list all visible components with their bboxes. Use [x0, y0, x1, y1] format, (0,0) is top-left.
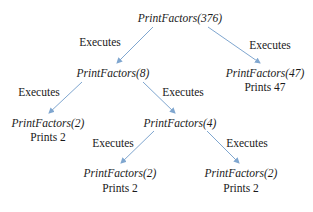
- edges-layer: [0, 0, 313, 212]
- edge-label-4-2-left: Executes: [92, 137, 134, 149]
- edge-label-4-2-right: Executes: [226, 137, 268, 149]
- arrow-376-to-8: [117, 27, 153, 63]
- node-4-call: PrintFactors(4): [144, 117, 217, 129]
- node-376-call: PrintFactors(376): [138, 12, 222, 24]
- edge-label-8-2: Executes: [18, 86, 60, 98]
- edge-label-376-8: Executes: [79, 36, 121, 48]
- edge-label-8-4: Executes: [162, 86, 204, 98]
- node-2c-output: Prints 2: [223, 182, 258, 194]
- node-2c-call: PrintFactors(2): [205, 167, 278, 179]
- recursion-tree-diagram: PrintFactors(376) PrintFactors(8) PrintF…: [0, 0, 313, 212]
- node-47-call: PrintFactors(47): [226, 67, 305, 79]
- node-2b-output: Prints 2: [102, 182, 137, 194]
- edge-label-376-47: Executes: [249, 39, 291, 51]
- node-8-call: PrintFactors(8): [77, 67, 150, 79]
- node-2a-output: Prints 2: [30, 131, 65, 143]
- node-2b-call: PrintFactors(2): [84, 167, 157, 179]
- node-47-output: Prints 47: [244, 81, 285, 93]
- node-2a-call: PrintFactors(2): [12, 117, 85, 129]
